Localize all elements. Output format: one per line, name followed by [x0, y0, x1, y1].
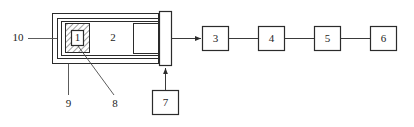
- chamber-end-compartment: [134, 24, 159, 54]
- callout-10-label: 10: [13, 31, 25, 43]
- callout-8-label: 8: [112, 97, 118, 109]
- unit-3-label: 3: [213, 32, 219, 44]
- technical-diagram: 1 2 7 3 4 5 6 10 9 8: [0, 0, 414, 127]
- unit-4-label: 4: [269, 32, 275, 44]
- chamber-interior-label: 2: [110, 31, 116, 43]
- unit-5-label: 5: [325, 32, 331, 44]
- callout-9-label: 9: [66, 97, 72, 109]
- unit-6-label: 6: [381, 32, 387, 44]
- sample-label: 1: [75, 31, 81, 43]
- diagram-canvas: 1 2 7 3 4 5 6 10 9 8: [0, 0, 414, 127]
- unit-7-label: 7: [163, 96, 169, 108]
- end-plate-flange: [160, 12, 172, 66]
- callout-8-leader: [78, 46, 114, 95]
